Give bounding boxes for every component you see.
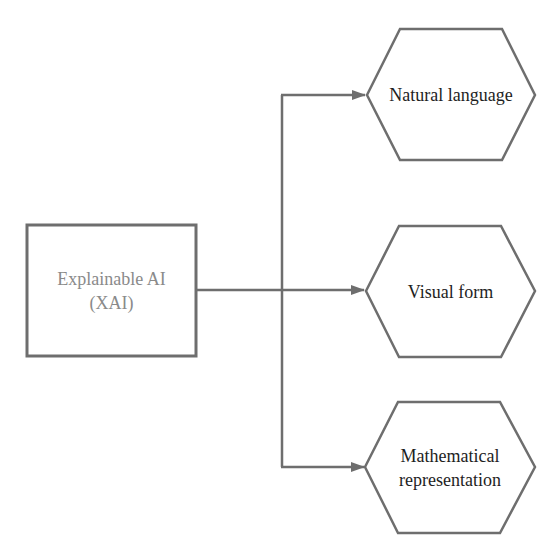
diagram-canvas: Explainable AI (XAI) Natural language Vi… — [0, 0, 558, 558]
target-label-line2: representation — [399, 468, 501, 492]
target-label-visual-form: Visual form — [366, 226, 535, 357]
target-label-line1: Visual form — [408, 280, 493, 304]
target-label-mathematical-representation: Mathematical representation — [365, 402, 535, 533]
source-label-line1: Explainable AI — [57, 267, 165, 291]
target-label-line1: Mathematical — [401, 444, 500, 468]
source-label-line2: (XAI) — [90, 291, 134, 315]
target-label-natural-language: Natural language — [367, 29, 535, 160]
target-label-line1: Natural language — [389, 83, 512, 107]
source-label: Explainable AI (XAI) — [27, 225, 196, 356]
